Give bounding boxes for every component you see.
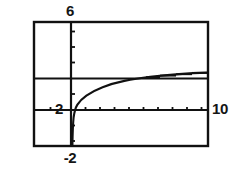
graph-figure: 6 -2 10 -2 bbox=[0, 0, 232, 175]
plot-canvas bbox=[0, 0, 232, 175]
y-axis-min-label: -2 bbox=[0, 150, 140, 165]
x-axis-min-label: -2 bbox=[0, 101, 63, 116]
curve-pixel-steps bbox=[146, 73, 207, 77]
plot-frame bbox=[34, 22, 208, 146]
y-axis-max-label: 6 bbox=[0, 3, 140, 18]
x-axis-max-label: 10 bbox=[212, 101, 228, 116]
